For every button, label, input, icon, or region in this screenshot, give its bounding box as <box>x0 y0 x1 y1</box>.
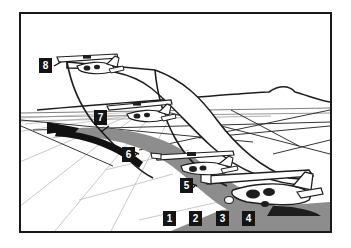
callout-7: 7 <box>94 110 107 125</box>
callout-4-label: 4 <box>246 213 252 224</box>
callout-8: 8 <box>39 58 52 73</box>
scene-illustration <box>21 14 330 231</box>
callout-2: 2 <box>189 211 202 226</box>
callout-6: 6 <box>122 147 135 162</box>
callout-2-label: 2 <box>193 213 199 224</box>
callout-6-label: 6 <box>126 149 132 160</box>
callout-3-label: 3 <box>220 213 226 224</box>
callout-1: 1 <box>163 211 176 226</box>
figure-frame: 8 7 6 5 1 2 3 4 <box>19 12 332 233</box>
trailing-aircraft-near <box>151 151 238 175</box>
callout-7-label: 7 <box>98 112 104 123</box>
figure-root: 8 7 6 5 1 2 3 4 <box>0 0 351 248</box>
callout-5-label: 5 <box>184 180 190 191</box>
callout-1-label: 1 <box>167 213 173 224</box>
callout-3: 3 <box>216 211 229 226</box>
callout-8-label: 8 <box>43 60 49 71</box>
callout-5: 5 <box>180 178 193 193</box>
callout-4: 4 <box>242 211 255 226</box>
